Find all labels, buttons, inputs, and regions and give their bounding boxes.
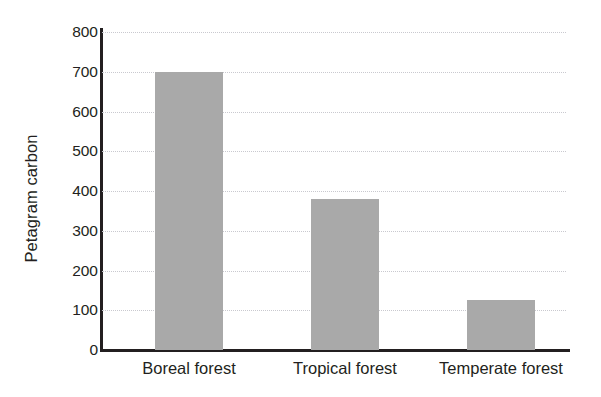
y-axis-tick-label: 600	[52, 104, 98, 120]
bar[interactable]	[467, 300, 535, 350]
y-axis-tick-labels: 0100200300400500600700800	[52, 0, 98, 397]
x-axis-tick-label: Tropical forest	[293, 356, 397, 380]
x-axis-tick-labels: Boreal forestTropical forestTemperate fo…	[102, 356, 570, 386]
y-axis-tick-label: 400	[52, 183, 98, 199]
x-axis-tick-label: Temperate forest	[439, 356, 563, 380]
bar[interactable]	[311, 199, 379, 350]
bar[interactable]	[155, 72, 223, 350]
y-axis-tick-label: 500	[52, 144, 98, 160]
y-axis-title-text: Petagram carbon	[22, 134, 41, 262]
y-axis-tick-label: 200	[52, 263, 98, 279]
plot-area	[102, 32, 570, 350]
x-axis-tick-label: Boreal forest	[142, 356, 236, 380]
y-axis-tick-label: 800	[52, 24, 98, 40]
y-axis-tick-label: 300	[52, 223, 98, 239]
gridline	[102, 32, 566, 33]
y-axis-tick-label: 0	[52, 342, 98, 358]
y-axis-tick-label: 100	[52, 303, 98, 319]
bar-chart: Petagram carbon 010020030040050060070080…	[0, 0, 601, 397]
y-axis-tick-label: 700	[52, 64, 98, 80]
